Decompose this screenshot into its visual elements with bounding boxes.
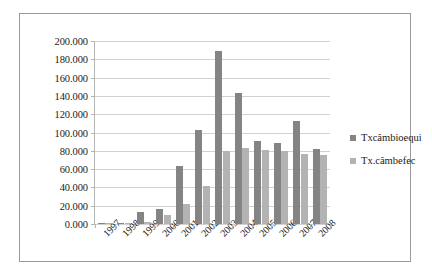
bar-2006-series-0: [274, 143, 281, 224]
bar-2005-series-1: [262, 150, 269, 224]
legend-label-series-1: Tx.câmbefec: [361, 155, 416, 166]
bar-2001-series-0: [176, 166, 183, 224]
bar-2006-series-1: [281, 151, 288, 224]
chart-frame: 0.00020.00040.00060.00080.000100.000120.…: [19, 13, 411, 262]
bar-2002-series-0: [195, 130, 202, 224]
x-axis-tick: [115, 224, 116, 228]
x-axis-tick: [252, 224, 253, 228]
y-axis-tick: [91, 187, 95, 188]
y-axis-label: 60.000: [60, 164, 88, 175]
x-axis-label-1997: 1997: [101, 217, 123, 239]
y-axis-label: 120.000: [55, 109, 88, 120]
bar-2002-series-1: [203, 186, 210, 224]
y-axis-label: 200.000: [55, 36, 88, 47]
y-axis-tick: [91, 96, 95, 97]
x-axis-tick: [232, 224, 233, 228]
y-axis-label: 140.000: [55, 90, 88, 101]
bar-1997-series-0: [98, 223, 105, 224]
x-axis-tick: [173, 224, 174, 228]
bar-1999-series-0: [137, 212, 144, 224]
y-axis-label: 100.000: [55, 127, 88, 138]
y-axis-tick: [91, 41, 95, 42]
gridline: [95, 41, 330, 42]
y-axis-tick: [91, 206, 95, 207]
y-axis-tick: [91, 114, 95, 115]
bar-2004-series-0: [235, 93, 242, 224]
bar-2004-series-1: [242, 148, 249, 224]
x-axis-tick: [271, 224, 272, 228]
bar-2000-series-0: [156, 209, 163, 224]
x-axis-tick: [95, 224, 96, 228]
legend-item-series-1: Tx.câmbefec: [350, 155, 422, 166]
y-axis-label: 20.000: [60, 200, 88, 211]
x-axis-tick: [330, 224, 331, 228]
y-axis-tick: [91, 133, 95, 134]
y-axis-tick: [91, 151, 95, 152]
y-axis-label: 180.000: [55, 54, 88, 65]
legend-label-series-0: Txcâmbioequi: [361, 132, 422, 143]
gridline: [95, 59, 330, 60]
bar-2005-series-0: [254, 141, 261, 224]
bar-1998-series-0: [117, 223, 124, 224]
y-axis-label: 0.000: [65, 219, 88, 230]
x-axis-tick: [310, 224, 311, 228]
bar-2003-series-0: [215, 51, 222, 224]
x-axis-tick: [193, 224, 194, 228]
gridline: [95, 96, 330, 97]
chart-screenshot: 0.00020.00040.00060.00080.000100.000120.…: [0, 0, 432, 280]
bar-2007-series-0: [293, 121, 300, 224]
gridline: [95, 114, 330, 115]
y-axis-tick: [91, 169, 95, 170]
chart-legend: Txcâmbioequi Tx.câmbefec: [350, 132, 422, 178]
y-axis-label: 80.000: [60, 145, 88, 156]
bar-2003-series-1: [223, 151, 230, 224]
y-axis-label: 160.000: [55, 72, 88, 83]
gridline: [95, 78, 330, 79]
x-axis-tick: [134, 224, 135, 228]
y-axis-label: 40.000: [60, 182, 88, 193]
legend-swatch-icon-series-1: [350, 158, 356, 164]
plot-area: 0.00020.00040.00060.00080.000100.000120.…: [95, 41, 330, 224]
y-axis-tick: [91, 59, 95, 60]
x-axis-tick: [291, 224, 292, 228]
y-axis-tick: [91, 78, 95, 79]
x-axis-tick: [154, 224, 155, 228]
legend-item-series-0: Txcâmbioequi: [350, 132, 422, 143]
x-axis-tick: [213, 224, 214, 228]
legend-swatch-icon-series-0: [350, 135, 356, 141]
bar-2008-series-0: [313, 149, 320, 224]
bar-2008-series-1: [320, 155, 327, 224]
bar-2007-series-1: [301, 154, 308, 224]
